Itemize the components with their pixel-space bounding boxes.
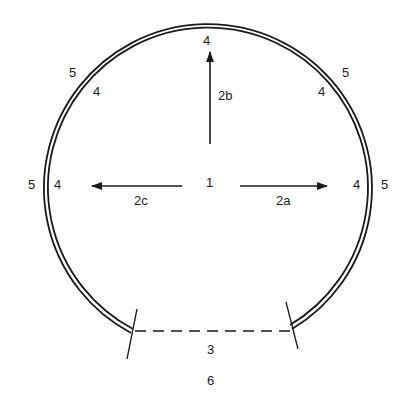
label-inner-left: 4: [54, 177, 61, 192]
label-inner-top: 4: [203, 33, 210, 48]
label-inner-upper-right: 4: [318, 84, 325, 99]
label-outer-left: 5: [28, 177, 35, 192]
label-invert-line: 3: [207, 342, 214, 357]
left-end-tick: [127, 309, 137, 359]
label-inner-right: 4: [353, 177, 360, 192]
label-caption: 6: [207, 373, 214, 388]
label-center: 1: [206, 175, 213, 190]
label-inner-upper-left: 4: [93, 84, 100, 99]
label-arrow-left: 2c: [134, 193, 148, 208]
label-outer-upper-left: 5: [69, 65, 76, 80]
label-arrow-up: 2b: [218, 88, 232, 103]
tunnel-cross-section-diagram: 1 2a 2b 2c 4 4 4 4 4 5 5 5 5 3 6: [0, 0, 405, 403]
label-outer-upper-right: 5: [342, 65, 349, 80]
label-outer-right: 5: [381, 177, 388, 192]
label-arrow-right: 2a: [276, 193, 291, 208]
